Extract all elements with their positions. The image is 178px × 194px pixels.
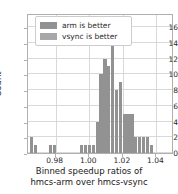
histogram-bar <box>80 145 83 153</box>
histogram-bar <box>84 145 87 153</box>
histogram-bar <box>138 137 141 153</box>
histogram-figure: Count 0246810121416 0.981.001.021.04 Bin… <box>0 0 178 194</box>
y-tick-mark <box>24 44 27 45</box>
y-tick-mark <box>24 154 27 155</box>
y-tick-mark <box>24 28 27 29</box>
y-tick-mark <box>24 75 27 76</box>
histogram-bar <box>130 114 133 153</box>
legend: arm is better vsync is better <box>35 16 132 46</box>
histogram-bar <box>107 66 110 153</box>
histogram-bar <box>115 90 118 153</box>
histogram-bar <box>88 145 91 153</box>
y-axis-label: Count <box>0 71 3 96</box>
x-tick-mark <box>122 154 123 157</box>
legend-label-vsync: vsync is better <box>62 32 117 41</box>
histogram-bar <box>119 82 122 153</box>
x-axis-label-line2: hmcs-arm over hmcs-vsync <box>0 177 178 188</box>
legend-swatch-arm <box>40 22 57 29</box>
y-tick-mark <box>24 138 27 139</box>
histogram-bar <box>126 114 129 153</box>
x-tick-mark <box>155 154 156 157</box>
legend-item-arm: arm is better <box>40 20 127 31</box>
x-tick-mark <box>88 154 89 157</box>
y-tick-label: 2 <box>154 134 178 142</box>
x-tick-label: 1.00 <box>80 156 97 165</box>
histogram-bar <box>34 145 37 153</box>
x-axis-label: Binned speedup ratios of hmcs-arm over h… <box>0 166 178 188</box>
legend-label-arm: arm is better <box>62 21 111 30</box>
histogram-bar <box>92 145 95 153</box>
y-tick-label: 12 <box>154 56 178 64</box>
histogram-bar <box>123 114 126 153</box>
histogram-bar <box>49 145 52 153</box>
y-tick-label: 16 <box>154 24 178 32</box>
y-tick-label: 10 <box>154 71 178 79</box>
x-tick-label: 1.02 <box>113 156 130 165</box>
histogram-bar <box>103 59 106 153</box>
y-tick-mark <box>24 60 27 61</box>
histogram-bar <box>99 74 102 153</box>
histogram-bar <box>142 137 145 153</box>
legend-swatch-vsync <box>40 33 57 40</box>
legend-item-vsync: vsync is better <box>40 31 127 42</box>
y-tick-label: 8 <box>154 87 178 95</box>
histogram-bar <box>30 137 33 153</box>
histogram-bar <box>146 137 149 153</box>
x-tick-label: 1.04 <box>147 156 164 165</box>
y-tick-label: 6 <box>154 103 178 111</box>
y-tick-mark <box>24 107 27 108</box>
x-tick-label: 0.98 <box>46 156 63 165</box>
histogram-bar <box>53 145 56 153</box>
x-axis-label-line1: Binned speedup ratios of <box>0 166 178 177</box>
histogram-bar <box>150 145 153 153</box>
y-tick-label: 4 <box>154 119 178 127</box>
y-tick-mark <box>24 91 27 92</box>
y-tick-label: 14 <box>154 40 178 48</box>
y-tick-mark <box>24 123 27 124</box>
histogram-bar <box>134 137 137 153</box>
x-tick-mark <box>55 154 56 157</box>
histogram-bar <box>96 122 99 153</box>
